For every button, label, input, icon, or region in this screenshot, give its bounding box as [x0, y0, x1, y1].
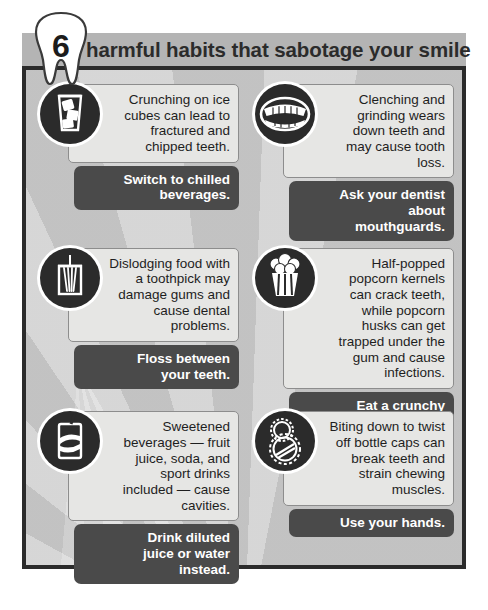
open-mouth-teeth-icon	[249, 78, 321, 150]
tooth-icon	[31, 10, 91, 88]
infographic-poster: 6 harmful habits that sabotage your smil…	[0, 0, 488, 610]
tip-advice-text: Ask your dentist about mouthguards.	[289, 181, 454, 241]
ice-glass-icon	[34, 78, 106, 150]
tip-card: Clenching and grinding wears down teeth …	[249, 78, 454, 238]
tip-card: Dislodging food with a toothpick may dam…	[34, 242, 239, 402]
soda-can-icon	[34, 405, 106, 477]
popcorn-box-icon	[249, 242, 321, 314]
tips-grid: Crunching on ice cubes can lead to fract…	[26, 70, 462, 565]
tip-card: Biting down to twist off bottle caps can…	[249, 405, 454, 565]
tip-advice-text: Drink diluted juice or water instead.	[74, 524, 239, 584]
tip-advice-text: Use your hands.	[289, 509, 454, 538]
tip-card: Sweetened beverages — fruit juice, soda,…	[34, 405, 239, 565]
toothpick-holder-icon	[34, 242, 106, 314]
tip-advice-text: Switch to chilled beverages.	[74, 166, 239, 210]
page-title: harmful habits that sabotage your smile	[86, 33, 466, 66]
tip-advice-text: Floss between your teeth.	[74, 345, 239, 389]
tip-card: Half-popped popcorn kernels can crack te…	[249, 242, 454, 402]
tip-card: Crunching on ice cubes can lead to fract…	[34, 78, 239, 238]
bottle-caps-icon	[249, 405, 321, 477]
